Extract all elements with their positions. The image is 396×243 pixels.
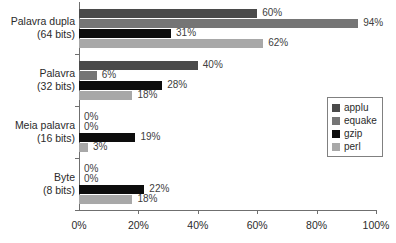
x-axis-tick-label: 0% [71, 219, 86, 231]
bar [79, 71, 97, 80]
bar-value-label: 19% [137, 132, 160, 142]
x-axis-tick [198, 210, 199, 214]
legend-swatch-icon [332, 143, 340, 151]
bar [79, 133, 135, 142]
legend-swatch-icon [332, 117, 340, 125]
category-label-line1: Palavra dupla [11, 15, 75, 27]
x-axis-tick [257, 210, 258, 214]
bar [79, 9, 257, 18]
bar-value-label: 0% [81, 122, 98, 132]
bar-value-label: 40% [200, 60, 223, 70]
bar [79, 29, 171, 38]
y-axis-tick [75, 210, 79, 211]
bar [79, 39, 263, 48]
legend-label: perl [344, 142, 361, 152]
x-axis-tick-label: 60% [247, 219, 268, 231]
bar-value-label: 18% [134, 194, 157, 204]
category-label-line1: Byte [54, 171, 75, 183]
y-axis-tick [75, 54, 79, 55]
legend-item-perl[interactable]: perl [332, 140, 377, 153]
category-label-line2: (64 bits) [11, 28, 75, 41]
bar-value-label: 3% [90, 142, 107, 152]
bar-value-label: 18% [134, 90, 157, 100]
legend-swatch-icon [332, 130, 340, 138]
bar [79, 185, 144, 194]
category-label: Byte(8 bits) [43, 171, 75, 196]
x-axis-tick-label: 80% [306, 219, 327, 231]
y-axis-tick [75, 158, 79, 159]
legend-label: equake [344, 116, 377, 126]
bar-value-label: 6% [99, 70, 116, 80]
legend-label: gzip [344, 129, 362, 139]
legend-item-equake[interactable]: equake [332, 114, 377, 127]
category-label: Palavra dupla(64 bits) [11, 15, 75, 40]
category-label-line2: (16 bits) [15, 132, 75, 145]
x-axis-tick [317, 210, 318, 214]
x-axis-tick [376, 210, 377, 214]
bar [79, 195, 132, 204]
category-label-line2: (32 bits) [37, 80, 75, 93]
bar-value-label: 28% [164, 80, 187, 90]
x-axis-tick-label: 20% [128, 219, 149, 231]
bar-value-label: 31% [173, 28, 196, 38]
category-label-line1: Palavra [39, 67, 75, 79]
legend-swatch-icon [332, 104, 340, 112]
bar-value-label: 0% [81, 174, 98, 184]
legend-label: applu [344, 103, 368, 113]
category-label-line1: Meia palavra [15, 119, 75, 131]
y-axis-tick [75, 106, 79, 107]
category-label: Meia palavra(16 bits) [15, 119, 75, 144]
bar [79, 143, 88, 152]
x-axis-tick-label: 40% [187, 219, 208, 231]
legend: appluequakegzipperl [327, 97, 383, 157]
category-label-line2: (8 bits) [43, 184, 75, 197]
bar [79, 19, 358, 28]
legend-item-applu[interactable]: applu [332, 101, 377, 114]
bar-value-label: 62% [265, 38, 288, 48]
x-axis-line [79, 210, 377, 211]
bar-value-label: 94% [360, 18, 383, 28]
x-axis-tick-label: 100% [363, 219, 390, 231]
bar [79, 61, 198, 70]
legend-item-gzip[interactable]: gzip [332, 127, 377, 140]
bar [79, 91, 132, 100]
category-label: Palavra(32 bits) [37, 67, 75, 92]
horizontal-bar-chart: 60%94%31%62%40%6%28%18%0%0%19%3%0%0%22%1… [0, 0, 396, 243]
bar-value-label: 60% [259, 8, 282, 18]
x-axis-tick [138, 210, 139, 214]
